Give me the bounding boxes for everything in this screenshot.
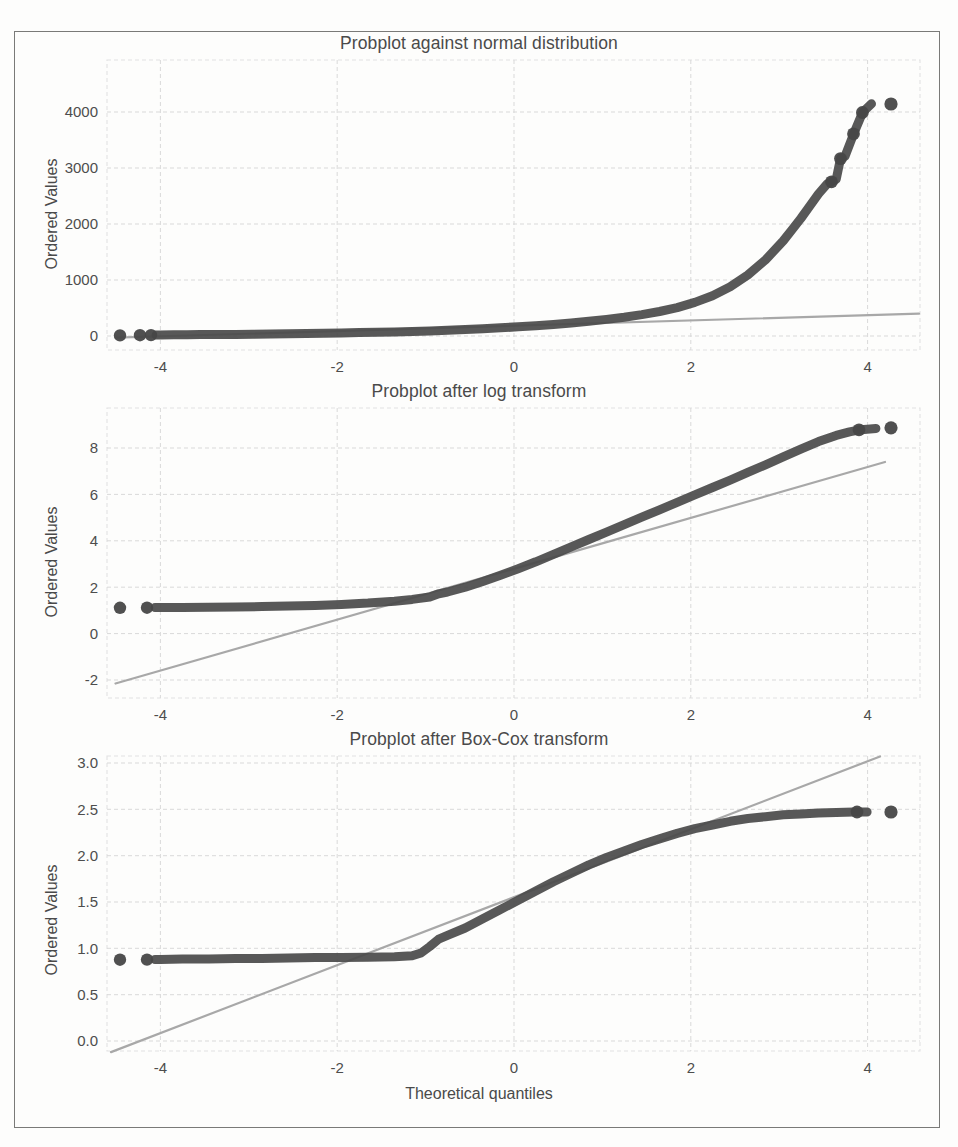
svg-text:1000: 1000	[65, 271, 98, 288]
panel-plot-normal[interactable]: 0 1000 2000 3000 4000 -4 -2 0 2 4	[0, 30, 958, 385]
svg-text:0: 0	[510, 706, 518, 723]
svg-text:4: 4	[863, 706, 871, 723]
svg-text:2: 2	[90, 579, 98, 596]
scanned-page: Probplot against normal distribution Ord…	[0, 0, 958, 1147]
panel-normal: Probplot against normal distribution Ord…	[0, 30, 958, 385]
svg-text:0.5: 0.5	[77, 986, 98, 1003]
svg-text:2.5: 2.5	[77, 801, 98, 818]
probplot-figure: Probplot against normal distribution Ord…	[0, 0, 958, 1147]
svg-text:1.0: 1.0	[77, 940, 98, 957]
svg-text:0: 0	[90, 625, 98, 642]
svg-text:-4: -4	[154, 358, 167, 375]
svg-text:0.0: 0.0	[77, 1032, 98, 1049]
panel-plot-boxcox[interactable]: 0.0 0.5 1.0 1.5 2.0 2.5 3.0 -4 -2 0 2 4	[0, 726, 958, 1116]
svg-text:1.5: 1.5	[77, 893, 98, 910]
svg-text:2: 2	[687, 706, 695, 723]
panel-plot-log[interactable]: -2 0 2 4 6 8 -4 -2 0 2 4	[0, 378, 958, 733]
svg-text:3000: 3000	[65, 159, 98, 176]
panel-log: Probplot after log transform Ordered Val…	[0, 378, 958, 733]
svg-text:2: 2	[687, 358, 695, 375]
svg-text:2: 2	[687, 1059, 695, 1076]
svg-text:-4: -4	[154, 706, 167, 723]
svg-text:3.0: 3.0	[77, 754, 98, 771]
svg-text:4: 4	[90, 532, 98, 549]
svg-text:4: 4	[863, 358, 871, 375]
svg-text:-2: -2	[331, 1059, 344, 1076]
svg-text:0: 0	[90, 327, 98, 344]
svg-text:8: 8	[90, 439, 98, 456]
svg-text:2.0: 2.0	[77, 847, 98, 864]
svg-text:6: 6	[90, 486, 98, 503]
svg-text:0: 0	[510, 358, 518, 375]
svg-text:-2: -2	[331, 706, 344, 723]
svg-text:-2: -2	[331, 358, 344, 375]
shared-xlabel: Theoretical quantiles	[0, 1085, 958, 1103]
svg-text:-4: -4	[154, 1059, 167, 1076]
panel-boxcox: Probplot after Box-Cox transform Ordered…	[0, 726, 958, 1116]
svg-text:0: 0	[510, 1059, 518, 1076]
svg-text:-2: -2	[85, 671, 98, 688]
svg-text:4: 4	[863, 1059, 871, 1076]
svg-text:2000: 2000	[65, 215, 98, 232]
svg-text:4000: 4000	[65, 103, 98, 120]
